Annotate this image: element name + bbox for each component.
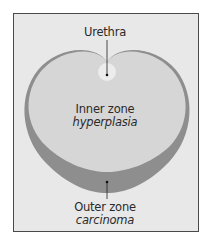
inner-zone-condition-text: hyperplasia xyxy=(0,116,210,129)
outer-zone-label: Outer zone carcinoma xyxy=(0,201,210,227)
urethra-label-text: Urethra xyxy=(0,26,210,39)
outer-zone-leader-dot xyxy=(106,181,109,184)
outer-zone-condition-text: carcinoma xyxy=(0,214,210,227)
inner-zone-label: Inner zone hyperplasia xyxy=(0,103,210,129)
urethra-label: Urethra xyxy=(0,26,210,39)
urethra-leader-dot xyxy=(106,74,109,77)
